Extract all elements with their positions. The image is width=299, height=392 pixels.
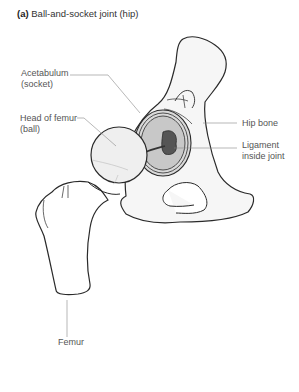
acetabulum-leader: [70, 75, 140, 113]
label-femur: Femur: [58, 337, 84, 348]
label-head-of-femur: Head of femur (ball): [20, 113, 77, 135]
femur-shape: [36, 181, 120, 294]
hip-joint-illustration: [0, 0, 299, 392]
label-hip-bone: Hip bone: [242, 118, 278, 129]
femoral-head: [91, 127, 147, 184]
label-acetabulum: Acetabulum (socket): [21, 68, 69, 90]
label-ligament: Ligament inside joint: [242, 140, 285, 162]
